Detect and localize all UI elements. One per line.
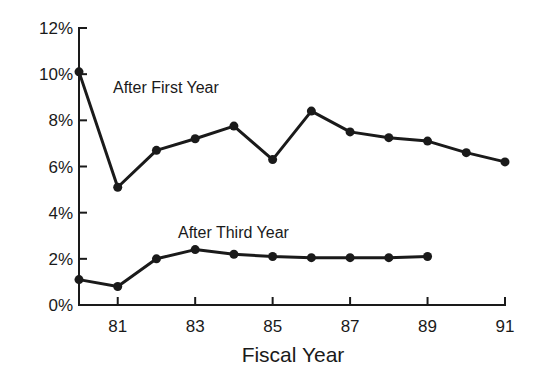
data-point	[384, 133, 393, 142]
data-point	[113, 183, 122, 192]
data-point	[423, 252, 432, 261]
y-tick-label: 2%	[48, 250, 73, 269]
data-point	[268, 252, 277, 261]
data-point	[268, 155, 277, 164]
data-point	[152, 254, 161, 263]
x-axis-label: Fiscal Year	[242, 343, 345, 366]
x-tick-label: 83	[186, 317, 205, 336]
data-point	[152, 146, 161, 155]
y-tick-label: 0%	[48, 296, 73, 315]
x-tick-label: 89	[418, 317, 437, 336]
y-tick-label: 8%	[48, 111, 73, 130]
data-point	[75, 67, 84, 76]
data-point	[307, 253, 316, 262]
data-point	[75, 275, 84, 284]
series-line-1	[79, 250, 428, 287]
data-point	[191, 245, 200, 254]
annotation-after-third-year: After Third Year	[178, 224, 290, 241]
line-chart: 0%2%4%6%8%10%12% 818385878991 After Firs…	[0, 0, 537, 376]
data-point	[229, 250, 238, 259]
x-axis-ticks: 818385878991	[108, 297, 514, 336]
x-tick-label: 87	[341, 317, 360, 336]
data-point	[501, 157, 510, 166]
x-tick-label: 81	[108, 317, 127, 336]
x-tick-label: 85	[263, 317, 282, 336]
y-tick-label: 6%	[48, 158, 73, 177]
series-group	[75, 67, 510, 291]
axes	[79, 28, 505, 305]
data-point	[346, 127, 355, 136]
data-point	[113, 282, 122, 291]
y-tick-label: 4%	[48, 204, 73, 223]
x-tick-label: 91	[496, 317, 515, 336]
data-point	[462, 148, 471, 157]
annotation-after-first-year: After First Year	[113, 79, 219, 96]
data-point	[423, 137, 432, 146]
data-point	[229, 122, 238, 131]
data-point	[384, 253, 393, 262]
data-point	[346, 253, 355, 262]
y-tick-label: 12%	[39, 19, 73, 38]
y-tick-label: 10%	[39, 65, 73, 84]
data-point	[191, 134, 200, 143]
axis-lines	[79, 28, 505, 305]
data-point	[307, 107, 316, 116]
